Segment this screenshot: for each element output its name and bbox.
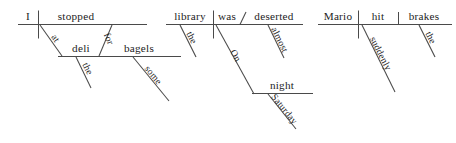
diagram-2-complement-mod-word: almost	[269, 25, 291, 54]
diagram-2-subject-word: library	[174, 10, 206, 22]
diagram-2-article-word: the	[184, 29, 199, 45]
diagram-1-prep1-word: at	[49, 32, 62, 44]
diagram-3: Mario hit brakes suddenly the	[318, 10, 452, 92]
diagram-2-complement-divider	[240, 12, 246, 25]
diagram-2-object-word: night	[270, 79, 295, 91]
diagram-2-prep-word: On	[228, 47, 244, 63]
diagram-2-object-mod-word: Saturday	[269, 91, 300, 126]
diagram-1-modifier2-word: some	[143, 63, 165, 86]
sentence-diagram-canvas: I stopped at deli the for bagels some li…	[0, 0, 456, 143]
diagram-2-verb-word: was	[218, 10, 236, 22]
diagram-1-subject-word: I	[26, 10, 30, 22]
diagram-3-verb-word: hit	[372, 10, 385, 22]
diagram-3-article-word: the	[423, 29, 438, 45]
diagram-1: I stopped at deli the for bagels some	[18, 10, 181, 101]
diagram-2: library was deserted the almost On night…	[166, 10, 313, 129]
diagram-1-article1-word: the	[81, 61, 96, 77]
diagram-3-adverb-word: suddenly	[368, 35, 394, 72]
diagram-1-verb-word: stopped	[58, 10, 95, 22]
diagram-2-complement-word: deserted	[254, 10, 293, 22]
diagram-1-object2-word: bagels	[124, 42, 154, 54]
diagram-3-subject-word: Mario	[324, 10, 353, 22]
diagram-3-object-word: brakes	[409, 10, 440, 22]
diagram-1-object1-word: deli	[72, 42, 90, 54]
